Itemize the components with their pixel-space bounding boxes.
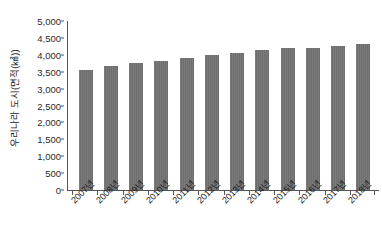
y-axis-tick-mark	[61, 37, 64, 38]
y-axis-tick-label: 500	[45, 168, 61, 179]
y-axis-tick-mark	[61, 122, 64, 123]
bar-slot	[174, 21, 199, 190]
y-axis-tick-mark	[61, 156, 64, 157]
bar-slot	[225, 21, 250, 190]
bar-slot	[351, 21, 376, 190]
bar	[129, 63, 143, 190]
x-label-slot: 2008년	[97, 196, 122, 232]
x-label-slot: 2009년	[123, 196, 148, 232]
bar-slot	[275, 21, 300, 190]
bar	[205, 55, 219, 190]
x-label-slot: 2013년	[224, 196, 249, 232]
bar	[306, 48, 320, 190]
bar-slot	[149, 21, 174, 190]
bar	[230, 53, 244, 190]
y-axis-title-text: 우리나라 도시(면적(㎢))	[7, 49, 21, 146]
bar-slot	[250, 21, 275, 190]
x-label-slot: 2016년	[299, 196, 324, 232]
bar-slot	[199, 21, 224, 190]
x-label-slot: 2018년	[350, 196, 375, 232]
bar-slot	[124, 21, 149, 190]
bar-group	[68, 21, 379, 190]
x-axis-tick-labels: 2007년2008년2009년2010년2011년2012년2013년2014년…	[67, 196, 378, 232]
y-axis-title: 우리나라 도시(면적(㎢))	[2, 0, 26, 196]
y-axis-tick-mark	[61, 173, 64, 174]
bar	[180, 58, 194, 190]
y-axis-tick-mark	[61, 190, 64, 191]
x-label-slot: 2011년	[173, 196, 198, 232]
y-axis-tick-label: 1,000	[37, 151, 61, 162]
y-axis-tick-label: 3,000	[37, 83, 61, 94]
y-axis-tick-labels: 05001,0001,5002,0002,5003,0003,5004,0004…	[24, 0, 64, 196]
x-label-slot: 2012년	[198, 196, 223, 232]
x-label-slot: 2017년	[325, 196, 350, 232]
bar	[79, 70, 93, 190]
y-axis-tick-mark	[61, 88, 64, 89]
x-label-slot: 2015년	[274, 196, 299, 232]
bar	[356, 44, 370, 190]
bar	[255, 50, 269, 190]
y-axis-tick-mark	[61, 139, 64, 140]
bar-slot	[98, 21, 123, 190]
bar-slot	[326, 21, 351, 190]
y-axis-tick-mark	[61, 105, 64, 106]
y-axis-tick-label: 4,000	[37, 49, 61, 60]
y-axis-tick-label: 5,000	[37, 16, 61, 27]
bar	[331, 46, 345, 190]
bar	[104, 66, 118, 190]
y-axis-tick-label: 3,500	[37, 66, 61, 77]
y-axis-tick-label: 4,500	[37, 32, 61, 43]
x-label-slot: 2014년	[249, 196, 274, 232]
y-axis-tick-label: 2,500	[37, 100, 61, 111]
x-label-slot: 2007년	[72, 196, 97, 232]
x-axis-tick-mark	[374, 191, 375, 195]
y-axis-tick-label: 2,000	[37, 117, 61, 128]
bar	[281, 48, 295, 190]
bar-slot	[73, 21, 98, 190]
plot-area	[67, 21, 379, 190]
bar	[154, 61, 168, 190]
y-axis-tick-mark	[61, 54, 64, 55]
y-axis-tick-label: 1,500	[37, 134, 61, 145]
bar-slot	[300, 21, 325, 190]
bar-chart: 우리나라 도시(면적(㎢)) 05001,0001,5002,0002,5003…	[0, 0, 382, 232]
y-axis-tick-mark	[61, 71, 64, 72]
x-label-slot: 2010년	[148, 196, 173, 232]
y-axis-tick-mark	[61, 21, 64, 22]
